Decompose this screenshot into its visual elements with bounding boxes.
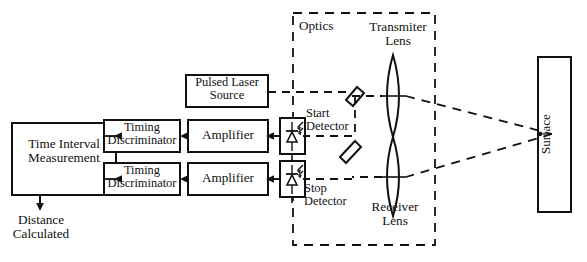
optics-enclosure <box>293 13 435 245</box>
diagram-canvas <box>0 0 587 262</box>
lidar-block-diagram: Time Interval Measurement Timing Discrim… <box>0 0 587 262</box>
arrowhead-amp-bottom-to-td-bottom <box>180 175 188 183</box>
pulsed-laser-source-box <box>186 75 268 107</box>
arrowhead-amp-top-to-td-top <box>180 132 188 140</box>
time-interval-measurement-box <box>12 123 116 195</box>
amplifier-bottom-box <box>188 163 268 195</box>
beam-transmit-to-surface <box>406 96 552 134</box>
surface-box <box>538 57 571 212</box>
surface-hit-point <box>538 132 542 136</box>
receiver-lens-symbol <box>380 137 406 216</box>
stop-detector-symbol <box>272 161 305 203</box>
transmitter-lens-symbol <box>380 55 406 137</box>
arrow-down-icon <box>36 203 44 211</box>
beam-surface-to-receiver <box>406 134 552 177</box>
mirror-lower <box>340 141 361 163</box>
start-detector-symbol <box>272 118 305 160</box>
amplifier-top-box <box>188 120 268 152</box>
